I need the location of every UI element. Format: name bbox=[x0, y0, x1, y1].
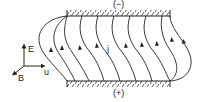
e-field-label: E bbox=[28, 45, 34, 54]
current-label: j bbox=[107, 45, 109, 54]
bottom-plate-label: (+) bbox=[113, 89, 124, 98]
b-field-label: B bbox=[18, 74, 24, 83]
current-arrows bbox=[49, 37, 186, 52]
bottom-electrode bbox=[67, 80, 170, 87]
velocity-label: u bbox=[44, 68, 49, 77]
top-electrode bbox=[67, 10, 170, 17]
top-plate-label: (−) bbox=[113, 0, 124, 9]
